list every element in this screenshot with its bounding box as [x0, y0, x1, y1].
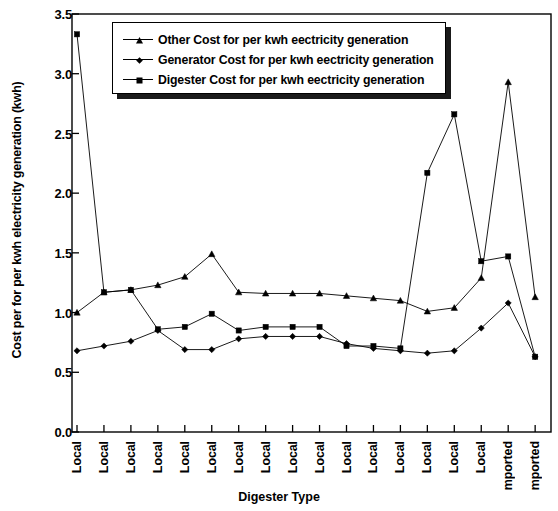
x-tick-label: Local: [474, 441, 488, 473]
data-point-marker: [424, 350, 430, 356]
legend-label: Generator Cost for per kwh eectricity ge…: [158, 53, 434, 67]
data-point-marker: [128, 287, 133, 292]
data-point-marker: [182, 324, 187, 329]
x-tick-label: Local: [286, 441, 300, 473]
data-point-marker: [101, 290, 106, 295]
legend-marker-triangle-icon: [123, 33, 153, 47]
x-axis-title: Digester Type: [0, 490, 558, 504]
x-tick-label: Local: [366, 441, 380, 473]
data-point-marker: [478, 275, 484, 281]
data-point-marker: [74, 348, 80, 354]
data-point-marker: [236, 336, 242, 342]
data-point-marker: [317, 324, 322, 329]
data-point-marker: [505, 79, 511, 85]
data-point-marker: [290, 333, 296, 339]
legend-item-other: Other Cost for per kwh eectricity genera…: [123, 30, 445, 49]
x-tick-label: Local: [340, 441, 354, 473]
x-tick-label: Local: [447, 441, 461, 473]
data-point-marker: [398, 346, 403, 351]
x-tick-label: Local: [97, 441, 111, 473]
data-point-marker: [344, 343, 349, 348]
data-point-marker: [209, 251, 215, 257]
data-point-marker: [209, 311, 214, 316]
data-point-marker: [506, 254, 511, 259]
x-tick-label: mported: [528, 441, 542, 490]
data-point-marker: [74, 32, 79, 37]
chart-legend: Other Cost for per kwh eectricity genera…: [112, 22, 446, 94]
data-point-marker: [155, 327, 160, 332]
data-point-marker: [101, 343, 107, 349]
data-point-marker: [263, 324, 268, 329]
x-tick-label: Local: [124, 441, 138, 473]
data-point-marker: [236, 328, 241, 333]
data-point-marker: [425, 170, 430, 175]
data-point-marker: [316, 333, 322, 339]
legend-label: Other Cost for per kwh eectricity genera…: [158, 33, 408, 47]
x-tick-label: Local: [205, 441, 219, 473]
x-tick-label: Local: [70, 441, 84, 473]
data-point-marker: [479, 259, 484, 264]
x-tick-label: Local: [313, 441, 327, 473]
legend-label: Digester Cost for per kwh eectricity gen…: [158, 73, 424, 87]
legend-marker-diamond-icon: [123, 53, 153, 67]
legend-item-digester: Digester Cost for per kwh eectricity gen…: [123, 70, 445, 89]
x-tick-label: Local: [259, 441, 273, 473]
x-tick-label: mported: [501, 441, 515, 490]
data-point-marker: [452, 112, 457, 117]
x-tick-label: Local: [393, 441, 407, 473]
data-point-marker: [182, 346, 188, 352]
x-tick-label: Local: [420, 441, 434, 473]
legend-marker-square-icon: [123, 73, 153, 87]
x-tick-label: Local: [151, 441, 165, 473]
data-point-marker: [532, 294, 538, 300]
data-point-marker: [533, 354, 538, 359]
legend-item-generator: Generator Cost for per kwh eectricity ge…: [123, 50, 445, 69]
data-point-marker: [371, 343, 376, 348]
data-series-line: [77, 82, 535, 313]
x-tick-label: Local: [232, 441, 246, 473]
data-point-marker: [290, 324, 295, 329]
data-point-marker: [209, 346, 215, 352]
data-point-marker: [128, 338, 134, 344]
x-tick-label: Local: [178, 441, 192, 473]
data-point-marker: [263, 333, 269, 339]
chart-figure: Cost per for per kwh electricity generat…: [0, 0, 558, 511]
